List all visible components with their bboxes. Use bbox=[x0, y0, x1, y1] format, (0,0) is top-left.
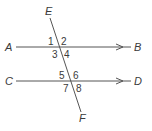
label-point-a: A bbox=[4, 41, 12, 53]
diagram-svg: E F A B C D 1 2 3 4 5 6 7 8 bbox=[0, 0, 152, 131]
angle-label-7: 7 bbox=[63, 83, 69, 94]
label-point-f: F bbox=[79, 112, 87, 124]
angle-label-6: 6 bbox=[73, 70, 79, 81]
angle-label-4: 4 bbox=[64, 49, 70, 60]
label-point-c: C bbox=[5, 75, 13, 87]
label-point-b: B bbox=[134, 41, 141, 53]
angle-label-3: 3 bbox=[52, 49, 58, 60]
angle-label-1: 1 bbox=[48, 36, 54, 47]
angle-label-8: 8 bbox=[76, 83, 82, 94]
angle-label-5: 5 bbox=[59, 70, 65, 81]
label-point-d: D bbox=[134, 75, 142, 87]
transversal-ef bbox=[50, 18, 81, 112]
label-point-e: E bbox=[45, 5, 53, 17]
line-ab bbox=[16, 44, 131, 50]
angle-label-2: 2 bbox=[61, 36, 67, 47]
parallel-lines-diagram: E F A B C D 1 2 3 4 5 6 7 8 bbox=[0, 0, 152, 131]
